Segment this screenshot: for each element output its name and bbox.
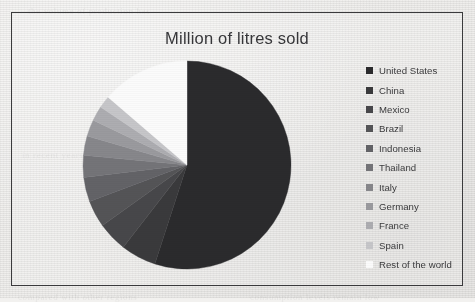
legend-swatch-icon	[366, 164, 373, 171]
legend-item[interactable]: Italy	[366, 177, 470, 196]
legend-item[interactable]: Spain	[366, 236, 470, 255]
legend-item[interactable]: France	[366, 216, 470, 235]
legend-swatch-icon	[366, 184, 373, 191]
legend-item[interactable]: Rest of the world	[366, 255, 470, 274]
legend-label: United States	[379, 65, 437, 76]
legend-item[interactable]: Germany	[366, 197, 470, 216]
plot-area: United StatesChinaMexicoBrazilIndonesiaT…	[12, 13, 464, 287]
legend-label: Thailand	[379, 162, 416, 173]
pie-slice-group	[83, 61, 291, 269]
legend-label: Mexico	[379, 104, 410, 115]
legend-item[interactable]: Thailand	[366, 158, 470, 177]
legend-swatch-icon	[366, 106, 373, 113]
legend-item[interactable]: Indonesia	[366, 139, 470, 158]
bleed-through-text: compared with other regions	[18, 292, 137, 302]
legend-swatch-icon	[366, 222, 373, 229]
legend-label: Spain	[379, 240, 404, 251]
legend-swatch-icon	[366, 145, 373, 152]
legend-label: Indonesia	[379, 143, 421, 154]
legend-label: Germany	[379, 201, 419, 212]
pie-chart	[81, 59, 293, 271]
legend-label: China	[379, 85, 404, 96]
legend-swatch-icon	[366, 125, 373, 132]
legend-item[interactable]: China	[366, 80, 470, 99]
legend-swatch-icon	[366, 242, 373, 249]
legend-swatch-icon	[366, 261, 373, 268]
bleed-through-text: consumption levels remain low	[250, 292, 380, 302]
chart-legend: United StatesChinaMexicoBrazilIndonesiaT…	[366, 61, 470, 274]
legend-swatch-icon	[366, 87, 373, 94]
chart-frame: Million of litres sold United StatesChin…	[11, 12, 463, 286]
legend-label: Brazil	[379, 123, 403, 134]
legend-swatch-icon	[366, 67, 373, 74]
legend-item[interactable]: Mexico	[366, 100, 470, 119]
legend-label: Italy	[379, 182, 397, 193]
legend-swatch-icon	[366, 203, 373, 210]
legend-label: Rest of the world	[379, 259, 452, 270]
legend-item[interactable]: Brazil	[366, 119, 470, 138]
legend-item[interactable]: United States	[366, 61, 470, 80]
legend-label: France	[379, 220, 409, 231]
